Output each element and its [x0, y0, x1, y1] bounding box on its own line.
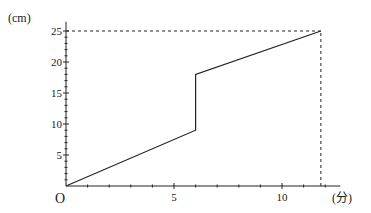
- line-chart: 510510152025 (cm) (分) O: [0, 0, 371, 213]
- y-axis-unit-label: (cm): [8, 11, 31, 25]
- y-tick-label: 15: [51, 87, 63, 99]
- y-tick-label: 20: [51, 56, 63, 68]
- y-tick-label: 5: [57, 149, 63, 161]
- tick-marks: 510510152025: [51, 25, 325, 203]
- series-line-height: [66, 31, 321, 186]
- x-tick-label: 5: [171, 191, 177, 203]
- origin-label: O: [55, 191, 65, 206]
- x-tick-label: 10: [277, 191, 289, 203]
- axes: [66, 22, 340, 186]
- x-axis-unit-label: (分): [332, 191, 352, 205]
- axis-labels: (cm) (分) O: [8, 11, 352, 206]
- reference-lines: [66, 31, 321, 186]
- data-series: [66, 31, 321, 186]
- y-tick-label: 10: [51, 118, 63, 130]
- y-tick-label: 25: [51, 25, 63, 37]
